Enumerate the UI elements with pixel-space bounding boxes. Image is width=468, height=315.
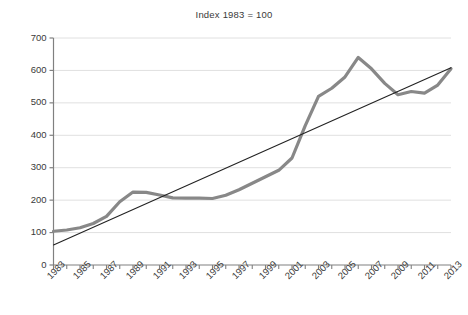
y-axis-tick-label: 500 — [13, 97, 47, 107]
series-line-index — [54, 57, 452, 231]
chart-title: Index 1983 = 100 — [0, 9, 468, 20]
series-line-trend — [54, 68, 452, 245]
y-axis-tick-label: 300 — [13, 162, 47, 172]
y-axis-tick-label: 200 — [13, 195, 47, 205]
y-axis-tick-label: 400 — [13, 130, 47, 140]
y-axis-tick-label: 0 — [13, 260, 47, 270]
y-axis-tick-label: 700 — [13, 33, 47, 43]
y-axis-tick-label: 100 — [13, 227, 47, 237]
chart-figure: Index 1983 = 100 01002003004005006007001… — [0, 0, 468, 315]
y-axis-tick-label: 600 — [13, 65, 47, 75]
